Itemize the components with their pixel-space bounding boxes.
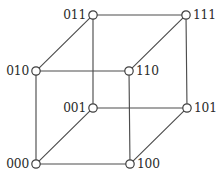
hypercube-figure: 011111010110001101000100	[0, 0, 224, 180]
vertex-011	[89, 11, 97, 19]
edge-110-111	[132, 18, 183, 68]
edge-110-100	[129, 75, 130, 160]
vertex-label-001: 001	[63, 101, 86, 115]
vertex-001	[89, 104, 97, 112]
vertex-110	[125, 67, 133, 75]
vertex-label-100: 100	[137, 157, 160, 171]
edge-100-101	[133, 111, 184, 161]
cube-diagram-canvas: 011111010110001101000100	[0, 0, 224, 180]
vertex-label-110: 110	[136, 64, 159, 78]
edge-000-001	[39, 111, 90, 161]
labels-group: 011111010110001101000100	[6, 8, 217, 171]
vertex-label-000: 000	[6, 157, 29, 171]
vertex-010	[32, 67, 40, 75]
edge-010-011	[39, 18, 90, 68]
vertex-label-111: 111	[193, 8, 216, 22]
edge-111-101	[186, 19, 187, 104]
vertex-100	[126, 160, 134, 168]
vertex-101	[183, 104, 191, 112]
vertex-label-101: 101	[194, 101, 217, 115]
vertex-label-011: 011	[63, 8, 86, 22]
vertex-label-010: 010	[6, 64, 29, 78]
vertex-000	[32, 160, 40, 168]
edges-group	[36, 15, 187, 164]
vertex-111	[182, 11, 190, 19]
